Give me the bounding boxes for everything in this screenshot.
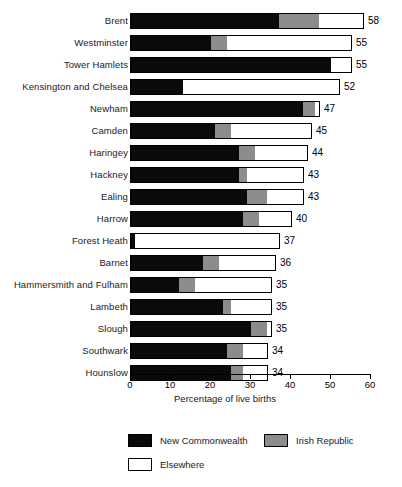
x-tick-label: 60	[355, 379, 385, 390]
bar-segment-elsewhere	[231, 300, 271, 314]
category-label: Ealing	[101, 186, 128, 208]
bar-segment-irish-republic	[239, 168, 247, 182]
bar-segment-irish-republic	[223, 300, 231, 314]
bar-segment-irish-republic	[215, 124, 231, 138]
bar-total-value: 45	[316, 123, 327, 139]
category-label: Westminster	[74, 32, 128, 54]
bar-total-value: 43	[308, 189, 319, 205]
stacked-bar	[130, 57, 352, 73]
bar-segment-new-commonwealth	[131, 14, 279, 28]
bar-rows: Brent58Westminster55Tower Hamlets55Kensi…	[0, 10, 402, 384]
stacked-bar	[130, 211, 292, 227]
bar-segment-elsewhere	[195, 278, 271, 292]
bar-segment-irish-republic	[211, 36, 227, 50]
category-label: Camden	[91, 120, 128, 142]
bar-segment-elsewhere	[259, 212, 291, 226]
bar-segment-new-commonwealth	[131, 344, 227, 358]
bar-total-value: 44	[312, 145, 323, 161]
bar-segment-elsewhere	[243, 366, 267, 380]
bar-segment-irish-republic	[203, 256, 219, 270]
bar-segment-new-commonwealth	[131, 366, 231, 380]
bar-segment-elsewhere	[231, 124, 311, 138]
bar-segment-irish-republic	[179, 278, 195, 292]
chart-row: Lambeth35	[0, 296, 402, 318]
bar-segment-irish-republic	[227, 344, 243, 358]
category-label: Brent	[105, 10, 128, 32]
bar-segment-new-commonwealth	[131, 212, 243, 226]
category-label: Forest Heath	[72, 230, 128, 252]
bar-segment-elsewhere	[267, 322, 271, 336]
bar-segment-elsewhere	[227, 36, 351, 50]
bar-total-value: 37	[284, 233, 295, 249]
bar-segment-new-commonwealth	[131, 300, 223, 314]
chart-row: Brent58	[0, 10, 402, 32]
stacked-bar	[130, 123, 312, 139]
legend-swatch-gray-icon	[264, 434, 288, 447]
bar-segment-new-commonwealth	[131, 256, 203, 270]
category-label: Hackney	[90, 164, 128, 186]
legend-item-elsewhere: Elsewhere	[128, 458, 264, 471]
legend-swatch-white-icon	[128, 458, 152, 471]
x-tick-label: 50	[315, 379, 345, 390]
chart-row: Hammersmith and Fulham35	[0, 274, 402, 296]
category-label: Newham	[90, 98, 128, 120]
chart-row: Barnet36	[0, 252, 402, 274]
stacked-bar	[130, 145, 308, 161]
chart-row: Haringey44	[0, 142, 402, 164]
chart-row: Camden45	[0, 120, 402, 142]
bar-segment-elsewhere	[331, 58, 351, 72]
category-label: Harrow	[97, 208, 128, 230]
bar-total-value: 34	[272, 343, 283, 359]
stacked-bar	[130, 13, 364, 29]
legend-item-new-commonwealth: New Commonwealth	[128, 434, 264, 447]
bar-segment-irish-republic	[243, 212, 259, 226]
legend-label-elsewhere: Elsewhere	[160, 459, 204, 470]
stacked-bar	[130, 101, 320, 117]
bar-segment-irish-republic	[251, 322, 267, 336]
stacked-bar-chart: Brent58Westminster55Tower Hamlets55Kensi…	[0, 0, 402, 487]
bar-segment-irish-republic	[303, 102, 315, 116]
bar-segment-elsewhere	[319, 14, 363, 28]
bar-segment-irish-republic	[247, 190, 267, 204]
stacked-bar	[130, 255, 276, 271]
chart-legend: New Commonwealth Irish Republic Elsewher…	[128, 428, 402, 476]
stacked-bar	[130, 167, 304, 183]
bar-segment-new-commonwealth	[131, 58, 331, 72]
bar-segment-new-commonwealth	[131, 36, 211, 50]
stacked-bar	[130, 35, 352, 51]
bar-total-value: 52	[344, 79, 355, 95]
stacked-bar	[130, 189, 304, 205]
bar-total-value: 35	[276, 299, 287, 315]
chart-row: Harrow40	[0, 208, 402, 230]
bar-segment-elsewhere	[135, 234, 279, 248]
chart-row: Westminster55	[0, 32, 402, 54]
chart-row: Kensington and Chelsea52	[0, 76, 402, 98]
x-tick-label: 0	[115, 379, 145, 390]
bar-segment-irish-republic	[239, 146, 255, 160]
bar-total-value: 43	[308, 167, 319, 183]
chart-row: Tower Hamlets55	[0, 54, 402, 76]
bar-segment-elsewhere	[255, 146, 307, 160]
legend-row-2: Elsewhere	[128, 452, 402, 476]
bar-total-value: 55	[356, 35, 367, 51]
bar-segment-new-commonwealth	[131, 278, 179, 292]
bar-segment-irish-republic	[279, 14, 319, 28]
bar-segment-elsewhere	[243, 344, 267, 358]
plot-area: Brent58Westminster55Tower Hamlets55Kensi…	[0, 0, 402, 380]
chart-row: Forest Heath37	[0, 230, 402, 252]
stacked-bar	[130, 343, 268, 359]
chart-row: Southwark34	[0, 340, 402, 362]
x-tick-label: 20	[195, 379, 225, 390]
bar-segment-elsewhere	[267, 190, 303, 204]
bar-segment-new-commonwealth	[131, 102, 303, 116]
bar-total-value: 35	[276, 321, 287, 337]
category-label: Lambeth	[90, 296, 128, 318]
bar-total-value: 47	[324, 101, 335, 117]
bar-segment-new-commonwealth	[131, 322, 251, 336]
category-label: Barnet	[99, 252, 128, 274]
stacked-bar	[130, 277, 272, 293]
x-tick-label: 30	[235, 379, 265, 390]
category-label: Haringey	[89, 142, 128, 164]
legend-swatch-black-icon	[128, 434, 152, 447]
bar-segment-elsewhere	[183, 80, 339, 94]
